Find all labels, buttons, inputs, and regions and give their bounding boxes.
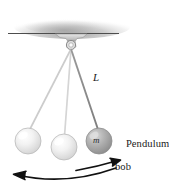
pendulum-strings	[29, 49, 99, 136]
pendulum-bob-label-line2: bob	[115, 161, 169, 173]
bob-left-extreme	[15, 128, 41, 154]
arc-arrow-left-head	[14, 171, 27, 179]
bob-center	[51, 134, 77, 160]
pendulum-figure: L m Pendulum bob	[0, 0, 169, 195]
length-label: L	[93, 71, 99, 83]
mass-label: m	[93, 135, 100, 145]
pendulum-bob-label: Pendulum bob	[115, 126, 169, 195]
pendulum-bob-label-line1: Pendulum	[126, 138, 169, 149]
swing-arrows	[14, 158, 121, 179]
string-right	[71, 49, 99, 131]
string-center	[65, 49, 72, 136]
string-left	[29, 49, 71, 131]
pivot-ring	[66, 40, 75, 49]
arc-arrow-left	[17, 168, 116, 179]
